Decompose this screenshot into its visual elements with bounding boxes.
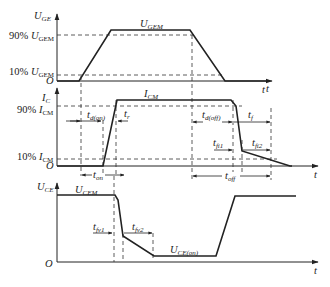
y-axis-label-uge: UGE [34,10,52,23]
y-axis-label-ic: IC [41,92,51,105]
level-label-90-ugem: 90% UGEM [9,30,55,43]
label-ton: ton [93,169,103,182]
level-label-10-icm: 10% ICM [17,151,54,164]
igbt-switching-diagram: UGE t O 90% UGEM 10% UGEM UGEM IC t t O … [0,0,330,287]
label-tf: tf [248,109,254,122]
level-label-icm: ICM [143,88,159,101]
waveform-ic [57,100,292,166]
origin-label-uce: O [45,258,53,269]
label-tfv1: tfv1 [93,221,104,234]
y-axis-label-uce: UCE [37,181,54,194]
label-td-off: td(off) [202,109,221,122]
label-tr: tr [124,108,130,121]
level-label-90-icm: 90% ICM [17,104,54,117]
label-td-on: td(on) [87,109,106,122]
label-tfv2: tfv2 [132,221,144,234]
level-label-10-ugem: 10% UGEM [9,66,55,79]
collector-current-panel: IC t t O 90% ICM 10% ICM ICM td(on) [17,35,318,183]
level-label-ugem: UGEM [140,18,164,31]
collector-emitter-voltage-panel: UCE t O UCEM UCE(on) tfv1 tfv2 [37,176,318,276]
label-tfi1: tfi1 [213,137,223,150]
x-axis-label-uge: t [266,83,270,94]
gate-voltage-panel: UGE t O 90% UGEM 10% UGEM UGEM [9,10,272,94]
waveform-uge [57,30,268,81]
x-axis-label-ic: t [314,169,318,180]
label-toff: toff [225,170,236,183]
level-label-uce-on: UCE(on) [170,244,199,257]
x-axis-label-uce: t [314,265,318,276]
label-tfi2: tfi2 [252,137,263,150]
